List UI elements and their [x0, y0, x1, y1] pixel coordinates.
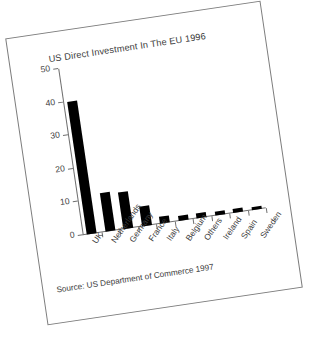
y-tick-label: 50 [40, 63, 51, 74]
x-axis-label: Sweden [258, 209, 283, 240]
y-tick-label: 20 [55, 163, 66, 174]
y-tick-label: 10 [59, 196, 70, 207]
plot-area: 01020304050 [58, 42, 266, 235]
chart-figure: US Direct Investment In The EU 1996 0102… [5, 1, 303, 326]
bar-series [58, 42, 266, 235]
x-axis-label: Italy [165, 225, 182, 243]
y-tick-label: 40 [45, 96, 56, 107]
y-tick-label: 30 [50, 130, 61, 141]
x-axis-label: Ireland [220, 214, 243, 241]
bar [100, 192, 116, 232]
